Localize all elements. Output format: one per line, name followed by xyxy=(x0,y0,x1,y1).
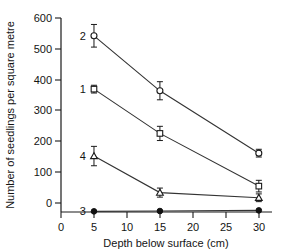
y-tick-label-100: 100 xyxy=(34,166,52,178)
data-point-3-5 xyxy=(91,209,97,215)
y-tick-label-0: 0 xyxy=(46,197,52,209)
data-point-1-5 xyxy=(91,86,97,92)
x-tick-label-15: 15 xyxy=(154,221,166,233)
series-label-4: 4 xyxy=(80,150,86,162)
x-tick-label-25: 25 xyxy=(220,221,232,233)
x-tick-label-10: 10 xyxy=(121,221,133,233)
chart-background xyxy=(0,0,284,252)
seedling-depth-line-chart: 0 100 200 300 400 500 600 0 5 10 15 20 2… xyxy=(0,0,284,252)
x-tick-label-30: 30 xyxy=(253,221,265,233)
data-point-2-30 xyxy=(256,150,262,156)
x-axis-title: Depth below surface (cm) xyxy=(103,237,228,249)
data-point-1-30 xyxy=(256,183,262,189)
data-point-1-15 xyxy=(157,131,163,137)
y-axis-title: Number of seedlings per square metre xyxy=(4,21,16,209)
y-tick-label-600: 600 xyxy=(34,12,52,24)
data-point-2-5 xyxy=(91,33,97,39)
x-tick-label-20: 20 xyxy=(187,221,199,233)
y-tick-label-200: 200 xyxy=(34,135,52,147)
data-point-2-15 xyxy=(157,88,163,94)
x-tick-label-5: 5 xyxy=(91,221,97,233)
series-label-1: 1 xyxy=(80,83,86,95)
y-tick-label-400: 400 xyxy=(34,74,52,86)
series-label-2: 2 xyxy=(80,30,86,42)
data-point-3-15 xyxy=(157,208,163,214)
series-label-3: 3 xyxy=(80,205,86,217)
x-tick-label-0: 0 xyxy=(58,221,64,233)
y-tick-label-300: 300 xyxy=(34,104,52,116)
y-tick-label-500: 500 xyxy=(34,43,52,55)
chart-figure: 0 100 200 300 400 500 600 0 5 10 15 20 2… xyxy=(0,0,284,252)
data-point-3-30 xyxy=(256,208,262,214)
